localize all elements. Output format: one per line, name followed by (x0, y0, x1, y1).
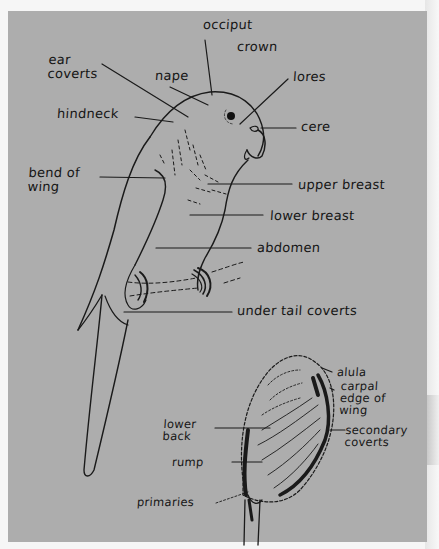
label-rump: rump (172, 456, 205, 468)
label-nape: nape (155, 69, 190, 83)
label-ear-coverts: ear coverts (47, 53, 99, 81)
label-crown: crown (237, 40, 279, 54)
back-parrot-figure (241, 356, 333, 545)
label-secondary-coverts: secondary coverts (344, 424, 408, 448)
label-lower-breast: lower breast (270, 209, 355, 223)
label-abdomen: abdomen (257, 241, 321, 255)
label-primaries: primaries (137, 496, 195, 508)
label-upper-breast: upper breast (298, 178, 386, 192)
label-occiput: occiput (203, 18, 254, 32)
label-carpal-edge-of-wing: carpal edge of wing (339, 380, 387, 416)
label-lower-back: lower back (162, 418, 197, 442)
label-cere: cere (301, 120, 331, 134)
label-lores: lores (293, 70, 327, 84)
label-under-tail-coverts: under tail coverts (237, 304, 358, 318)
label-hindneck: hindneck (57, 107, 120, 121)
label-bend-of-wing: bend of wing (27, 166, 80, 194)
label-alula: alula (337, 366, 367, 378)
parrot-drawing (0, 0, 439, 549)
